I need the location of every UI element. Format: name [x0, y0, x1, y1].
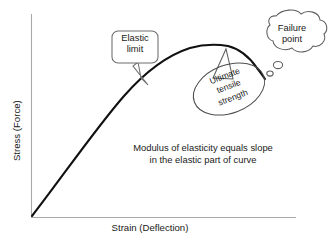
stress-strain-figure: Elastic limit Failure point Ultimate ten… — [0, 0, 331, 251]
failure-point-cloud-bubble-large — [273, 61, 282, 68]
elastic-limit-label: Elastic limit — [113, 33, 157, 55]
y-axis-label: Stress (Force) — [11, 81, 22, 181]
failure-point-cloud-bubble-small — [267, 71, 273, 76]
x-axis-label: Strain (Deflection) — [85, 222, 215, 233]
modulus-of-elasticity-note: Modulus of elasticity equals slope in th… — [113, 142, 293, 166]
failure-point-label: Failure point — [268, 23, 316, 45]
